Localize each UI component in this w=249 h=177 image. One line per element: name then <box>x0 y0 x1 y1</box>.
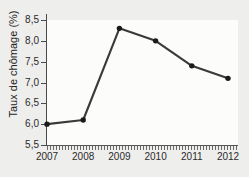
data-point-marker: 2011: 7.4 <box>189 63 194 68</box>
data-point-marker: 2010: 8 <box>153 38 158 43</box>
data-point-marker: 2012: 7.1 <box>225 76 230 81</box>
data-point-marker: 2009: 8.3 <box>117 26 122 31</box>
data-point-marker: 2008: 6.1 <box>81 117 86 122</box>
data-series-line: 2007: 62008: 6.12009: 8.32010: 82011: 7.… <box>0 0 249 177</box>
chart-figure: 5,56,06,57,07,58,08,5 200720082009201020… <box>0 0 249 177</box>
data-point-marker: 2007: 6 <box>44 121 49 126</box>
series-polyline <box>47 28 228 124</box>
